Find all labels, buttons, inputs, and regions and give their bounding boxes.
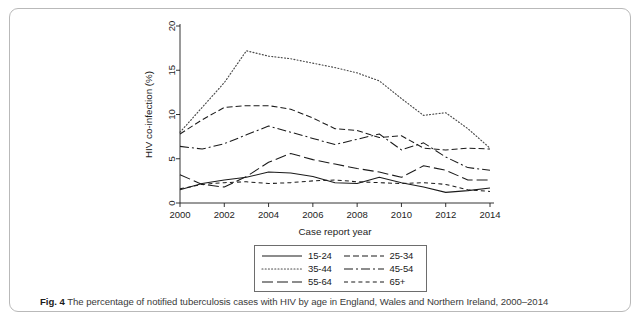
legend-label: 35-44 — [308, 264, 332, 274]
legend-item-45-54[interactable]: 45-54 — [343, 263, 421, 275]
legend-label: 45-54 — [390, 264, 414, 274]
x-tick-label: 2010 — [391, 209, 412, 220]
legend-label: 55-64 — [308, 277, 332, 287]
y-tick-label: 10 — [166, 109, 177, 120]
legend-item-15-24[interactable]: 15-24 — [261, 250, 339, 262]
legend-item-25-34[interactable]: 25-34 — [343, 250, 421, 262]
figure-caption: Fig. 4 The percentage of notified tuberc… — [40, 296, 614, 308]
line-chart-svg: 0510152020002002200420062008201020122014… — [10, 9, 632, 237]
legend-swatch-dash-dot — [343, 264, 385, 274]
y-tick-label: 15 — [166, 65, 177, 76]
legend-swatch-dotted — [261, 264, 303, 274]
x-tick-label: 2014 — [479, 209, 500, 220]
legend-label: 65+ — [390, 277, 406, 287]
figure-number: Fig. 4 — [40, 296, 65, 307]
y-axis-title: HIV co-infection (%) — [143, 71, 154, 158]
legend-item-35-44[interactable]: 35-44 — [261, 263, 339, 275]
y-tick-label: 20 — [166, 21, 177, 32]
legend-label: 25-34 — [390, 251, 414, 261]
x-tick-label: 2012 — [435, 209, 456, 220]
legend-item-55-64[interactable]: 55-64 — [261, 276, 339, 288]
x-tick-label: 2008 — [347, 209, 368, 220]
y-tick-label: 0 — [166, 200, 177, 205]
series-line-35-44 — [180, 51, 490, 148]
x-tick-label: 2000 — [169, 209, 190, 220]
chart-legend: 15-2425-3435-4445-5455-6465+ — [254, 245, 427, 292]
x-axis-title: Case report year — [299, 226, 373, 237]
x-tick-label: 2002 — [214, 209, 235, 220]
x-tick-label: 2006 — [302, 209, 323, 220]
figure-card: 0510152020002002200420062008201020122014… — [9, 8, 631, 312]
legend-grid: 15-2425-3435-4445-5455-6465+ — [261, 250, 420, 288]
legend-swatch-dash-short — [343, 251, 385, 261]
y-tick-label: 5 — [166, 156, 177, 161]
legend-swatch-dash-medium — [343, 277, 385, 287]
figure-caption-text: The percentage of notified tuberculosis … — [67, 296, 548, 307]
chart-plot-area: 0510152020002002200420062008201020122014… — [10, 9, 632, 237]
series-line-55-64 — [180, 153, 490, 187]
legend-label: 15-24 — [308, 251, 332, 261]
legend-swatch-solid — [261, 251, 303, 261]
legend-item-65plus[interactable]: 65+ — [343, 276, 421, 288]
legend-swatch-dash-long — [261, 277, 303, 287]
x-tick-label: 2004 — [258, 209, 279, 220]
